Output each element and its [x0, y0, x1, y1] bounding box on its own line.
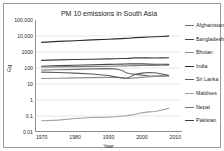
- series-line: [42, 36, 169, 42]
- legend-swatch-icon: [185, 79, 194, 80]
- chart-screenshot: PM 10 emissions in South Asia 100,00010,…: [0, 0, 224, 151]
- legend-item-pakistan[interactable]: Pakistan: [185, 116, 216, 125]
- series-line: [42, 108, 169, 120]
- legend-label: India: [196, 62, 208, 71]
- legend-item-bhutan[interactable]: Bhutan: [185, 48, 213, 57]
- series-line: [42, 76, 169, 78]
- legend-swatch-icon: [185, 52, 194, 53]
- legend-label: Maldives: [196, 89, 217, 98]
- legend-swatch-icon: [185, 25, 194, 26]
- y-tick-label: 100,000: [14, 17, 33, 23]
- chart-frame: PM 10 emissions in South Asia 100,00010,…: [3, 3, 221, 148]
- legend-label: Bhutan: [196, 48, 213, 57]
- legend-swatch-icon: [185, 93, 194, 94]
- legend-item-sri-lanka[interactable]: Sri Lanka: [185, 75, 218, 84]
- x-axis-title: Year: [35, 143, 182, 149]
- y-tick-label: 10,000: [17, 33, 33, 39]
- legend-label: Sri Lanka: [196, 75, 218, 84]
- legend-label: Bangladesh: [196, 35, 224, 44]
- x-tick-label: 1990: [103, 134, 115, 140]
- y-tick-label: 100: [24, 65, 33, 71]
- y-tick-label: 1: [30, 97, 33, 103]
- y-tick-label: 0.01: [23, 129, 33, 135]
- y-tick-label: 1000: [21, 49, 33, 55]
- legend-item-afghanistan[interactable]: Afghanistan: [185, 21, 224, 30]
- chart-legend: AfghanistanBangladeshBhutanIndiaSri Lank…: [185, 21, 224, 133]
- plot-area: [35, 20, 182, 132]
- legend-label: Afghanistan: [196, 21, 224, 30]
- y-axis-tick-labels: 100,00010,00010001001010.10.01: [4, 20, 33, 132]
- legend-swatch-icon: [185, 107, 194, 108]
- y-tick-label: 0.1: [26, 113, 33, 119]
- chart-lines: [35, 20, 182, 132]
- chart-title: PM 10 emissions in South Asia: [34, 8, 184, 19]
- x-axis-tick-labels: 19701980199020002010: [35, 134, 182, 143]
- y-axis-title: Gg: [6, 65, 12, 72]
- x-tick-label: 2000: [136, 134, 148, 140]
- legend-item-nepal[interactable]: Nepal: [185, 103, 210, 112]
- series-line: [42, 58, 169, 61]
- legend-label: Pakistan: [196, 116, 216, 125]
- y-tick-label: 10: [27, 81, 33, 87]
- legend-label: Nepal: [196, 103, 210, 112]
- legend-swatch-icon: [185, 39, 194, 40]
- legend-swatch-icon: [185, 120, 194, 121]
- legend-item-india[interactable]: India: [185, 62, 208, 71]
- x-tick-label: 1970: [36, 134, 48, 140]
- legend-item-bangladesh[interactable]: Bangladesh: [185, 35, 224, 44]
- x-tick-label: 1980: [69, 134, 81, 140]
- legend-swatch-icon: [185, 66, 194, 67]
- x-tick-label: 2010: [170, 134, 182, 140]
- legend-item-maldives[interactable]: Maldives: [185, 89, 217, 98]
